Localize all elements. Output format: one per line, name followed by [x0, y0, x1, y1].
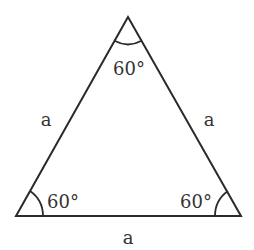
left-side-label: a [41, 109, 52, 130]
bottom-side-label: a [123, 227, 134, 248]
triangle-diagram: 60° 60° 60° a a a [0, 0, 254, 250]
top-angle-arc [115, 41, 141, 45]
bottom-left-angle-arc [30, 191, 43, 216]
bottom-left-angle-label: 60° [47, 191, 79, 212]
bottom-right-angle-arc [215, 191, 228, 216]
right-side-label: a [204, 109, 215, 130]
bottom-right-angle-label: 60° [180, 191, 212, 212]
top-angle-label: 60° [113, 58, 145, 79]
